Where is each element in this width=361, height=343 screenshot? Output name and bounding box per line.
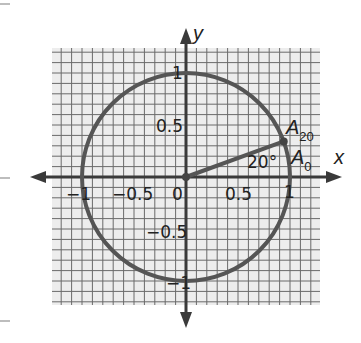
x-tick-0.5: 0.5 bbox=[225, 184, 252, 204]
x-tick-0: 0 bbox=[172, 184, 183, 204]
y-axis-up-arrow-icon bbox=[180, 28, 192, 44]
origin-point bbox=[182, 173, 190, 181]
point-a0-main: A bbox=[290, 146, 304, 168]
y-tick-neg0.5: −0.5 bbox=[146, 222, 187, 242]
y-tick-neg1: −1 bbox=[166, 273, 191, 293]
point-a20-sub: 20 bbox=[299, 129, 313, 144]
x-tick-neg0.5: −0.5 bbox=[112, 184, 153, 204]
angle-label: 20° bbox=[247, 152, 277, 172]
y-axis-down-arrow-icon bbox=[180, 312, 192, 328]
x-axis-label: x bbox=[333, 146, 345, 168]
x-axis-left-arrow-icon bbox=[30, 171, 46, 183]
x-tick-1: 1 bbox=[284, 182, 295, 202]
x-tick-neg1: −1 bbox=[66, 184, 91, 204]
point-a0-sub: 0 bbox=[304, 159, 311, 174]
x-axis-right-arrow-icon bbox=[326, 171, 342, 183]
y-tick-1: 1 bbox=[172, 63, 183, 83]
y-tick-0.5: 0.5 bbox=[156, 116, 183, 136]
point-a20-main: A bbox=[285, 116, 299, 138]
y-axis-label: y bbox=[191, 22, 204, 44]
unit-circle-diagram: x y −1 −0.5 0 0.5 1 1 0.5 −0.5 −1 20° A2… bbox=[0, 0, 361, 343]
point-a20 bbox=[280, 137, 288, 145]
